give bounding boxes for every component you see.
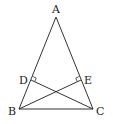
label-d: D: [19, 74, 28, 87]
label-e: E: [84, 74, 92, 87]
label-a: A: [51, 3, 61, 16]
side-ab: [19, 17, 56, 109]
segment-be: [19, 80, 81, 109]
side-ac: [56, 17, 93, 109]
triangle-diagram: A D E B C: [0, 0, 113, 124]
label-c: C: [96, 105, 104, 118]
label-b: B: [8, 105, 16, 118]
